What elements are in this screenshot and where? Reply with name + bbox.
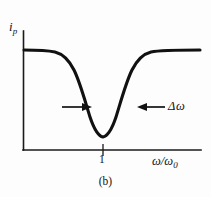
bandwidth-right-arrow <box>137 103 165 111</box>
resonance-dip-curve <box>24 50 200 137</box>
x-axis-label: ω/ω0 <box>152 155 178 170</box>
figure-caption: (b) <box>0 176 211 188</box>
x-axis-label-symbol: ω/ω <box>152 154 173 168</box>
y-axis-label: ip <box>9 20 17 36</box>
bandwidth-label: Δω <box>168 100 185 113</box>
resonance-dip-figure: ip ω/ω0 1 Δω (b) <box>0 0 211 197</box>
x-axis-label-subscript: 0 <box>173 160 178 170</box>
x-axis-tick-label: 1 <box>99 154 105 166</box>
y-axis-label-subscript: p <box>13 26 18 36</box>
